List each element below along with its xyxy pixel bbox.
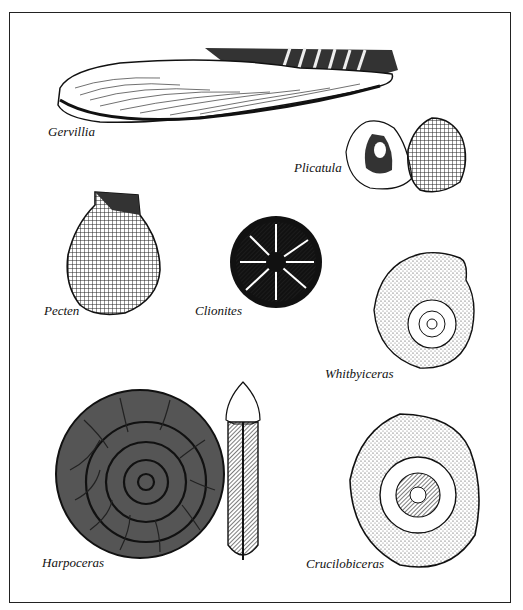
harpoceras-shell xyxy=(56,390,224,558)
label-plicatula: Plicatula xyxy=(294,160,342,176)
pecten-shell xyxy=(67,192,160,314)
label-gervillia: Gervillia xyxy=(48,124,95,140)
label-crucilobiceras: Crucilobiceras xyxy=(306,556,384,572)
label-pecten: Pecten xyxy=(44,303,79,319)
crucilobiceras-shell xyxy=(350,414,479,567)
label-clionites: Clionites xyxy=(195,303,242,319)
plicatula-shell xyxy=(346,118,466,192)
label-whitbyiceras: Whitbyiceras xyxy=(325,366,394,382)
clionites-shell xyxy=(230,216,322,308)
whitbyiceras-shell xyxy=(374,253,474,368)
gervillia-shell xyxy=(58,48,398,122)
harpoceras-keel-view xyxy=(226,382,260,560)
label-harpoceras: Harpoceras xyxy=(42,555,104,571)
